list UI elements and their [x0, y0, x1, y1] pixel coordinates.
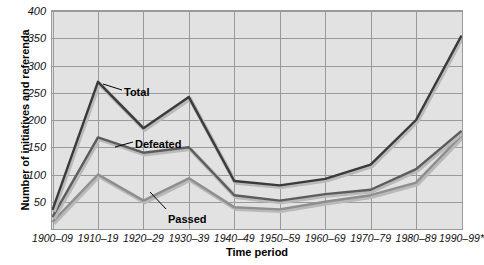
y-axis-tick-label: 350	[8, 32, 46, 44]
y-axis-tick-label: 200	[8, 114, 46, 126]
x-axis-tick-label: 1950–59	[259, 232, 300, 244]
x-axis-tick-label: 1930–39	[168, 232, 209, 244]
x-axis-tick-label: 1900–09	[32, 232, 73, 244]
x-axis-tick-label: 1980–89	[396, 232, 437, 244]
x-axis-title: Time period	[51, 246, 463, 258]
x-axis-tick-label: 1960–69	[305, 232, 346, 244]
series-label-defeated: Defeated	[135, 138, 181, 150]
chart-plot-svg	[52, 11, 462, 229]
y-axis-tick-label: 100	[8, 169, 46, 181]
x-axis-tick-label: 1910–19	[77, 232, 118, 244]
x-axis-tick-label: 1920–29	[123, 232, 164, 244]
series-lines	[53, 36, 463, 224]
y-axis-tick-label: 50	[8, 196, 46, 208]
plot-area	[51, 10, 463, 230]
x-axis-tick-label: 1970–79	[350, 232, 391, 244]
series-label-passed: Passed	[168, 213, 207, 225]
y-axis-tick-label: 250	[8, 87, 46, 99]
series-label-total: Total	[124, 86, 149, 98]
x-axis-tick-label: 1940–49	[214, 232, 255, 244]
y-axis-tick-label: 150	[8, 141, 46, 153]
y-axis-tick-label: 400	[8, 5, 46, 17]
gridlines	[52, 11, 462, 229]
y-axis-tick-label: 300	[8, 60, 46, 72]
x-axis-tick-label: 1990–99*	[439, 232, 484, 244]
series-line-defeated	[53, 131, 462, 217]
